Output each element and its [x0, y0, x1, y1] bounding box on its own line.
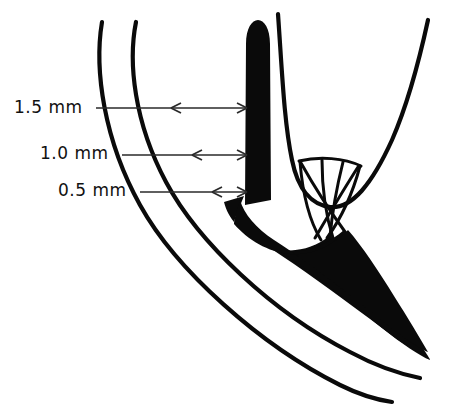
measurement-label-1-0mm: 1.0 mm	[40, 145, 109, 162]
anatomical-cross-section-figure: 1.5 mm 1.0 mm 0.5 mm	[0, 0, 449, 410]
fiber-left-outer	[300, 162, 321, 240]
outer-curve-path	[99, 22, 392, 402]
black-column-shape	[245, 20, 271, 205]
leader-1-0mm	[122, 150, 247, 160]
fiber-top-chord	[299, 158, 361, 166]
leader-0-5mm	[140, 187, 247, 197]
inner-curve-path	[133, 22, 420, 378]
leader-1-5mm	[96, 103, 247, 113]
diagram-canvas	[0, 0, 449, 410]
measurement-label-0-5mm: 0.5 mm	[58, 182, 127, 199]
measurement-label-1-5mm: 1.5 mm	[14, 99, 83, 116]
